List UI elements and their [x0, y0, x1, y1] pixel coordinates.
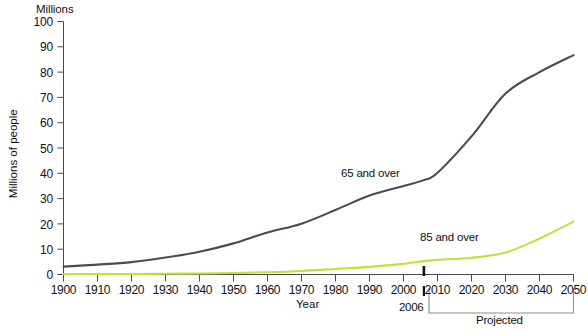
y-tick-label: 80 [27, 67, 53, 79]
y-axis-unit-caption: Millions [36, 4, 74, 16]
y-tick-label: 70 [27, 92, 53, 104]
series-label-85-and-over: 85 and over [420, 232, 479, 244]
y-tick-label: 10 [27, 244, 53, 256]
y-axis-title: Millions of people [8, 104, 20, 204]
x-axis-ticks [64, 275, 574, 282]
y-tick-label: 100 [27, 16, 53, 28]
series-label-65-and-over: 65 and over [341, 168, 400, 180]
y-tick-label: 20 [27, 219, 53, 231]
y-tick-label: 60 [27, 117, 53, 129]
y-axis-ticks [58, 22, 64, 275]
y-tick-label: 40 [27, 168, 53, 180]
population-projection-chart: Millions Millions of people Year 100 90 … [0, 0, 588, 333]
y-tick-label: 50 [27, 143, 53, 155]
marker-2006-label: 2006 [399, 302, 423, 314]
x-tick-label: 2050 [554, 284, 588, 296]
x-axis-title: Year [296, 299, 319, 311]
series-line-65-and-over [64, 55, 574, 267]
y-tick-label: 30 [27, 193, 53, 205]
y-tick-label: 90 [27, 41, 53, 53]
y-tick-label: 0 [27, 269, 53, 281]
series-line-85-and-over [64, 222, 574, 275]
projected-bracket-label: Projected [476, 315, 523, 327]
